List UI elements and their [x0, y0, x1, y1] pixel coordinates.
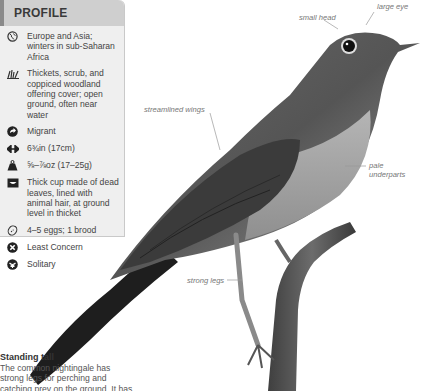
caption-line-1: The common nightingale has	[0, 363, 165, 374]
label-strong-legs: strong legs	[187, 276, 224, 285]
label-pale-underparts-line2: underparts	[369, 170, 405, 179]
label-large-eye: large eye	[377, 2, 408, 11]
caption-line-3: catching prey on the ground. It has	[0, 384, 165, 391]
label-streamlined-wings: streamlined wings	[144, 105, 205, 114]
caption: Standing tall The common nightingale has…	[0, 352, 165, 391]
caption-title: Standing tall	[0, 352, 165, 363]
annotation-leader-lines	[0, 0, 421, 391]
label-pale-underparts-line1: pale	[369, 161, 383, 170]
caption-line-2: strong legs for perching and	[0, 373, 165, 384]
